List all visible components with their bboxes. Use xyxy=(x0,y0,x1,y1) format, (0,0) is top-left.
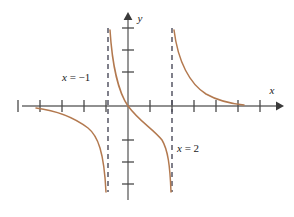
asymptote-label-left: x = −1 xyxy=(61,71,90,83)
curve-branch-left xyxy=(36,108,106,192)
y-axis-arrowhead xyxy=(124,12,133,20)
asymptote-label-right-rest: = 2 xyxy=(182,142,199,154)
curve-branch-right xyxy=(174,30,244,105)
asymptote-label-left-rest: = −1 xyxy=(67,71,90,83)
x-axis-label: x xyxy=(269,84,275,96)
curve-branch-middle xyxy=(110,30,171,192)
y-axis-label: y xyxy=(137,12,143,24)
x-axis-arrowhead xyxy=(276,102,284,111)
graph-figure: x y x = −1 x = 2 xyxy=(0,0,294,217)
asymptote-label-right: x = 2 xyxy=(176,142,199,154)
coordinate-plane-svg: x y x = −1 x = 2 xyxy=(0,0,294,217)
